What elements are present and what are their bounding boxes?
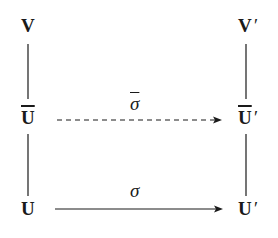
prime-mark: ′: [253, 15, 257, 36]
node-U-label: U: [21, 198, 35, 219]
node-U-bar: U: [21, 108, 35, 127]
node-U-prime: U′: [238, 199, 257, 218]
label-sigma: σ: [130, 181, 139, 200]
node-U-bar-prime-label: U: [238, 107, 252, 128]
node-V-label: V: [21, 15, 35, 36]
node-V: V: [21, 16, 35, 35]
node-U-bar-label: U: [21, 107, 35, 128]
diagram-edges: [0, 0, 278, 238]
node-V-prime: V′: [238, 16, 257, 35]
node-U: U: [21, 199, 35, 218]
label-sigma-bar: σ: [130, 94, 139, 113]
prime-mark: ′: [253, 107, 257, 128]
node-V-prime-label: V: [238, 15, 252, 36]
sigma-bar-text: σ: [130, 93, 139, 114]
node-U-prime-label: U: [238, 198, 252, 219]
prime-mark: ′: [253, 198, 257, 219]
sigma-text: σ: [130, 180, 139, 201]
node-U-bar-prime: U′: [238, 108, 257, 127]
